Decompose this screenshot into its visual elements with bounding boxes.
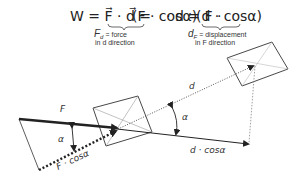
label-alpha-left: α: [58, 134, 64, 144]
note-force-line2: in d direction: [95, 39, 135, 46]
work-formula: W = F⃗ · d⃗ = (F · cosα) · d = F · (d · …: [70, 7, 262, 46]
label-force-projection: F · cosα: [55, 148, 91, 172]
label-displacement: d: [189, 81, 195, 91]
brace-right: [202, 24, 240, 30]
alpha-left-arc: [72, 127, 74, 150]
projection-connector: [19, 119, 39, 170]
brace-left: [108, 24, 144, 30]
label-displacement-projection: d · cosα: [190, 145, 225, 155]
box-start: [93, 96, 152, 146]
work-diagram: W = F⃗ · d⃗ = (F · cosα) · d = F · (d · …: [0, 0, 303, 179]
force-vector: [19, 119, 117, 128]
label-alpha-right: α: [182, 112, 188, 122]
note-displacement-line2: in F direction: [195, 39, 235, 46]
label-force: F: [60, 104, 66, 114]
force-projection-vector: [39, 131, 116, 170]
formula-group2: (d · cosα): [196, 8, 262, 24]
perpendicular-drop: [249, 66, 255, 143]
alpha-right-arc: [172, 107, 177, 134]
box-end: [227, 42, 288, 86]
